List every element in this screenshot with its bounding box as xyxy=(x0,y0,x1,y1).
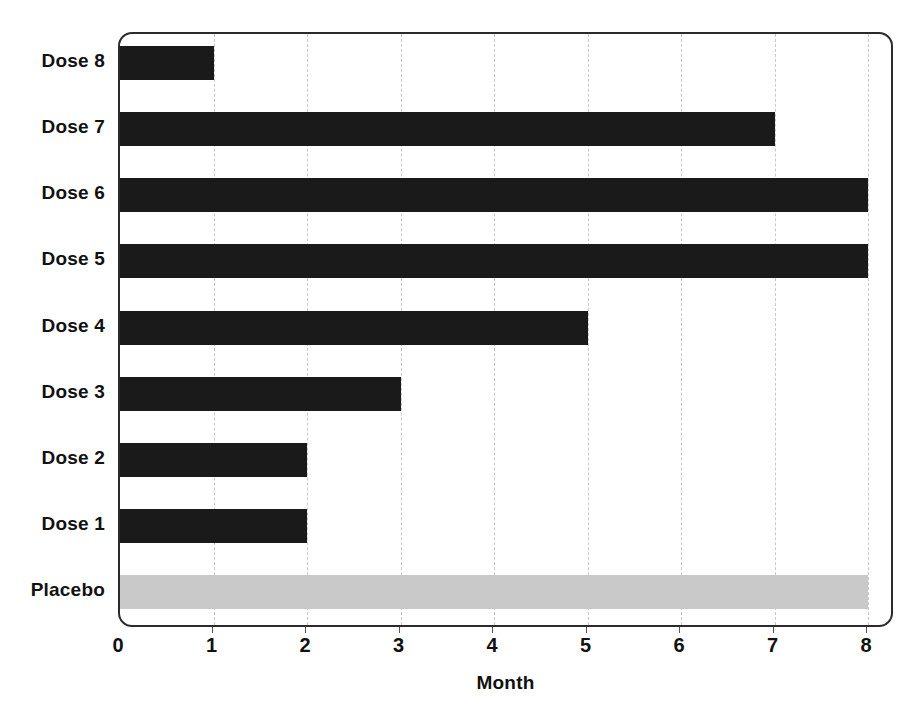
category-label-dose-2: Dose 2 xyxy=(0,441,105,475)
x-tick-label-0: 0 xyxy=(98,634,138,657)
x-tick-label-6: 6 xyxy=(659,634,699,657)
x-tick-label-1: 1 xyxy=(192,634,232,657)
category-label-dose-5: Dose 5 xyxy=(0,242,105,276)
x-tick-mark-2 xyxy=(305,627,306,633)
x-axis-title: Month xyxy=(118,672,893,694)
x-tick-mark-5 xyxy=(586,627,587,633)
x-tick-label-3: 3 xyxy=(379,634,419,657)
bar-dose-3 xyxy=(120,377,401,411)
x-tick-mark-8 xyxy=(866,627,867,633)
category-label-placebo: Placebo xyxy=(0,573,105,607)
category-label-dose-8: Dose 8 xyxy=(0,44,105,78)
x-tick-label-2: 2 xyxy=(285,634,325,657)
category-label-dose-6: Dose 6 xyxy=(0,176,105,210)
x-tick-label-5: 5 xyxy=(566,634,606,657)
category-label-dose-4: Dose 4 xyxy=(0,309,105,343)
bar-dose-1 xyxy=(120,509,307,543)
gridline-8 xyxy=(868,34,869,625)
bar-dose-7 xyxy=(120,112,775,146)
x-tick-mark-7 xyxy=(773,627,774,633)
plot-area xyxy=(118,32,893,627)
bar-placebo xyxy=(120,575,868,609)
bar-dose-5 xyxy=(120,244,868,278)
bar-dose-2 xyxy=(120,443,307,477)
gridline-7 xyxy=(775,34,776,625)
x-tick-mark-4 xyxy=(492,627,493,633)
bar-chart: Dose 8Dose 7Dose 6Dose 5Dose 4Dose 3Dose… xyxy=(0,0,917,714)
x-tick-label-7: 7 xyxy=(753,634,793,657)
category-label-dose-1: Dose 1 xyxy=(0,507,105,541)
x-tick-label-8: 8 xyxy=(846,634,886,657)
bar-dose-8 xyxy=(120,46,214,80)
x-tick-mark-1 xyxy=(212,627,213,633)
x-tick-mark-6 xyxy=(679,627,680,633)
bar-dose-4 xyxy=(120,311,588,345)
x-tick-mark-3 xyxy=(399,627,400,633)
x-tick-label-4: 4 xyxy=(472,634,512,657)
category-label-dose-3: Dose 3 xyxy=(0,375,105,409)
bar-dose-6 xyxy=(120,178,868,212)
category-label-dose-7: Dose 7 xyxy=(0,110,105,144)
